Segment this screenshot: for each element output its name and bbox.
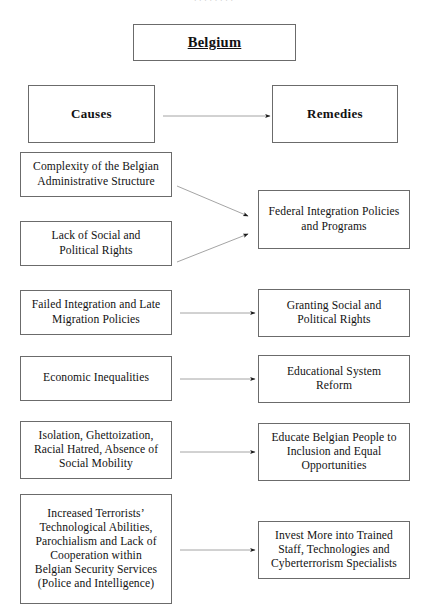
remedy-box-invest-more: Invest More into Trained Staff, Technolo…	[258, 521, 410, 579]
cause-label: Isolation, Ghettoization, Racial Hatred,…	[21, 429, 171, 471]
cause-label: Lack of Social and Political Rights	[21, 229, 171, 257]
cause-label: Failed Integration and Late Migration Po…	[21, 298, 171, 326]
title-label: Belgium	[134, 34, 295, 52]
cause-box-isolation-ghettoization: Isolation, Ghettoization, Racial Hatred,…	[20, 421, 172, 479]
diagram-canvas: · · · · · · · · Belgium Causes Remedies …	[0, 0, 427, 612]
header-box-causes: Causes	[28, 85, 155, 143]
remedy-label: Granting Social and Political Rights	[259, 299, 409, 327]
cause-label: Complexity of the Belgian Administrative…	[21, 160, 171, 188]
remedy-box-educate-belgian-people: Educate Belgian People to Inclusion and …	[258, 423, 410, 481]
causes-header-label: Causes	[29, 106, 154, 122]
cause-box-economic-inequalities: Economic Inequalities	[20, 356, 172, 401]
remedy-label: Invest More into Trained Staff, Technolo…	[259, 529, 409, 571]
remedy-label: Educational System Reform	[259, 365, 409, 393]
cause-label: Increased Terrorists’ Technological Abil…	[21, 507, 171, 592]
header-box-remedies: Remedies	[272, 85, 398, 143]
arrow-lack-of-rights-to-federal-integration	[177, 234, 248, 262]
remedy-box-granting-rights: Granting Social and Political Rights	[258, 289, 410, 337]
remedy-box-educational-reform: Educational System Reform	[258, 355, 410, 403]
cause-box-failed-integration: Failed Integration and Late Migration Po…	[20, 290, 172, 335]
remedy-label: Educate Belgian People to Inclusion and …	[259, 431, 409, 473]
remedy-label: Federal Integration Policies and Program…	[259, 205, 409, 233]
remedy-box-federal-integration: Federal Integration Policies and Program…	[258, 190, 410, 249]
cause-box-complexity: Complexity of the Belgian Administrative…	[20, 152, 172, 197]
clipped-top-text: · · · · · · · ·	[0, 0, 427, 9]
cause-box-lack-of-rights: Lack of Social and Political Rights	[20, 221, 172, 266]
arrow-complexity-to-federal-integration	[177, 186, 248, 216]
remedies-header-label: Remedies	[273, 106, 397, 122]
title-box-belgium: Belgium	[133, 24, 296, 61]
cause-label: Economic Inequalities	[21, 371, 171, 385]
cause-box-terrorist-abilities: Increased Terrorists’ Technological Abil…	[20, 494, 172, 604]
